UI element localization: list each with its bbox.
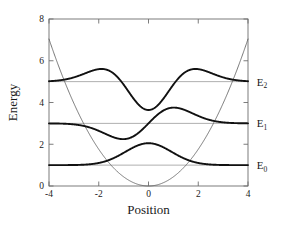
y-axis-title: Energy <box>5 83 20 121</box>
quantum-harmonic-oscillator-figure: -4-202402468 E2E1E0 Position Energy <box>0 0 294 234</box>
energy-level-label-e0: E0 <box>257 159 268 174</box>
axis-ticks-group <box>49 19 248 186</box>
y-tick-label-4: 8 <box>39 14 44 24</box>
x-tick-label-3: 2 <box>196 189 201 199</box>
energy-level-label-e0-subscript: 0 <box>263 165 267 174</box>
wavefunction-n0 <box>49 143 248 165</box>
plot-frame <box>49 19 248 186</box>
y-tick-label-0: 0 <box>39 181 44 191</box>
energy-level-label-e2: E2 <box>257 76 268 91</box>
energy-level-labels-group: E2E1E0 <box>257 76 268 174</box>
energy-level-label-e1-subscript: 1 <box>263 123 267 132</box>
y-tick-label-2: 4 <box>39 98 44 108</box>
x-axis-title: Position <box>127 202 170 217</box>
wavefunction-n2 <box>49 69 248 110</box>
energy-level-label-e2-subscript: 2 <box>263 81 267 90</box>
axis-tick-labels-group: -4-202402468 <box>39 14 250 199</box>
energy-level-label-e1: E1 <box>257 117 268 132</box>
chart-canvas: -4-202402468 E2E1E0 Position Energy <box>0 0 294 234</box>
y-tick-label-1: 2 <box>39 140 44 150</box>
plot-frame-group <box>49 19 248 186</box>
x-tick-label-2: 0 <box>146 189 151 199</box>
x-tick-label-1: -2 <box>95 189 103 199</box>
wavefunction-curves-group <box>49 69 248 165</box>
x-tick-label-0: -4 <box>45 189 53 199</box>
x-tick-label-4: 4 <box>246 189 251 199</box>
y-tick-label-3: 6 <box>39 56 44 66</box>
